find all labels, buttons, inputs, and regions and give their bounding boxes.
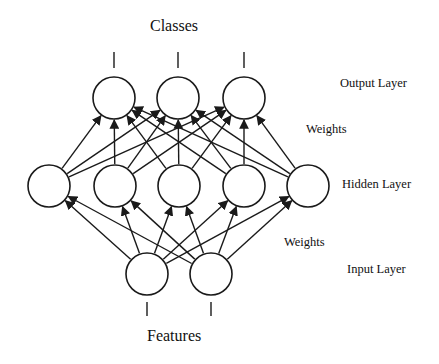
weights-upper-label: Weights xyxy=(306,122,347,137)
weight-arrow-hidden-to-output xyxy=(257,116,295,168)
hidden-node xyxy=(287,165,329,207)
weight-arrow-hidden-to-output xyxy=(114,120,115,164)
weight-arrow-hidden-to-output xyxy=(134,107,288,177)
hidden-node xyxy=(223,165,265,207)
weight-arrow-input-to-hidden xyxy=(65,201,130,260)
hidden-layer-label: Hidden Layer xyxy=(342,177,411,192)
classes-label: Classes xyxy=(150,17,198,35)
weight-arrow-input-to-hidden xyxy=(227,201,291,259)
weights-lower-label: Weights xyxy=(284,235,325,250)
input-layer-label: Input Layer xyxy=(347,262,406,277)
weight-arrow-input-to-hidden xyxy=(219,207,237,254)
weight-arrow-input-to-hidden xyxy=(131,201,195,259)
input-node xyxy=(126,253,168,295)
input-node xyxy=(190,253,232,295)
hidden-node xyxy=(28,165,70,207)
hidden-node xyxy=(94,165,136,207)
output-node xyxy=(223,77,265,119)
output-node xyxy=(93,77,135,119)
features-label: Features xyxy=(147,327,201,345)
output-node xyxy=(157,77,199,119)
weight-arrow-hidden-to-output xyxy=(62,116,101,169)
output-layer-label: Output Layer xyxy=(340,76,407,91)
weight-arrow-input-to-hidden xyxy=(187,207,204,254)
hidden-node xyxy=(158,165,200,207)
